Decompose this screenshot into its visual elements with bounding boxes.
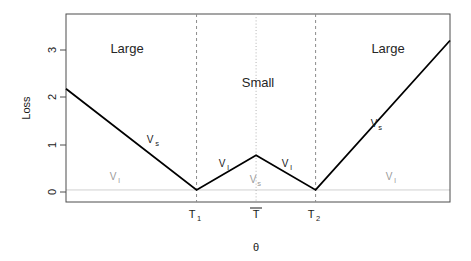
x-tick-label-t2-base: T (308, 208, 315, 220)
region-label-large-right: Large (371, 41, 404, 56)
loss-vs-theta-chart: 0 1 2 3 Loss T 1 T T 2 θ Large Small Lar… (0, 0, 471, 261)
y-tick-label-2: 2 (46, 94, 58, 100)
y-tick-label-3: 3 (46, 47, 58, 53)
annotation-vl-bottom-left-base: V (110, 171, 117, 182)
y-tick-label-1: 1 (46, 142, 58, 148)
annotation-vs-center-base: V (250, 174, 257, 185)
x-tick-label-t1-subscript: 1 (197, 214, 201, 223)
annotation-vl-mid-right-base: V (282, 158, 289, 169)
x-tick-label-t2: T 2 (308, 208, 320, 223)
region-label-large-left: Large (110, 41, 143, 56)
annotation-vs-left-base: V (147, 134, 154, 145)
x-axis-title: θ (253, 241, 259, 253)
annotation-vs-right-base: V (371, 118, 378, 129)
x-tick-label-t1-base: T (189, 208, 196, 220)
annotation-vl-bottom-right-base: V (386, 171, 393, 182)
annotation-vs-right-subscript: s (378, 123, 382, 132)
y-axis-title: Loss (20, 96, 32, 120)
annotation-vs-left-subscript: s (155, 139, 159, 148)
x-tick-label-t2-subscript: 2 (316, 214, 320, 223)
y-tick-label-0: 0 (46, 189, 58, 195)
annotation-vs-center-subscript: s (257, 179, 261, 188)
x-tick-label-tbar: T (250, 208, 262, 220)
x-tick-label-t1: T 1 (189, 208, 201, 223)
annotation-vl-mid-left-base: V (219, 158, 226, 169)
region-label-small: Small (242, 75, 275, 90)
x-tick-label-tbar-base: T (253, 208, 260, 220)
